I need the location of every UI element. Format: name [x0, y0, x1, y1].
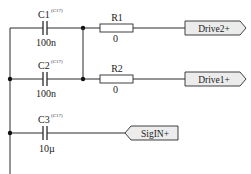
c1-ref-label: C1 [38, 9, 50, 20]
r2-resistor[interactable] [100, 75, 133, 83]
c3-value-label: 10µ [39, 143, 55, 154]
c2-value-label: 100n [36, 88, 56, 99]
c2-ref-label: C2 [38, 60, 50, 71]
port-drive2-label: Drive2+ [198, 24, 230, 34]
port-sigin-label: SigIN+ [141, 129, 169, 139]
junction-dot [8, 77, 12, 81]
c2-superscript: (C17) [51, 59, 63, 64]
c3-superscript: (C17) [51, 113, 63, 118]
port-drive1-label: Drive1+ [198, 75, 230, 85]
r2-ref-label: R2 [111, 63, 123, 74]
r1-resistor[interactable] [100, 24, 133, 32]
c1-superscript: (C17) [51, 8, 63, 13]
c1-value-label: 100n [36, 37, 56, 48]
junction-dot [8, 131, 12, 135]
r1-value-label: 0 [113, 33, 118, 44]
r2-value-label: 0 [113, 84, 118, 95]
c3-ref-label: C3 [38, 114, 50, 125]
junction-dot [81, 77, 85, 81]
r1-ref-label: R1 [111, 12, 123, 23]
schematic-canvas: C1 (C17) 100n C2 (C17) 100n C3 (C17) 10µ… [0, 0, 251, 174]
